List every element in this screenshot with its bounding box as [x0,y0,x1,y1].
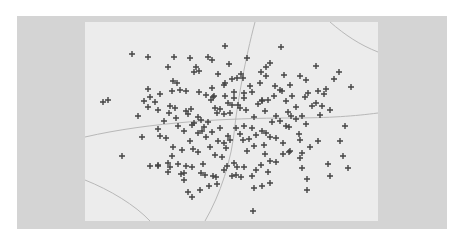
plus-marker-icon [175,123,181,129]
plus-marker-icon [265,169,271,175]
plus-marker-icon [342,123,348,129]
plus-marker-icon [181,177,187,183]
plus-marker-icon [203,134,209,140]
plus-marker-icon [229,173,235,179]
plus-marker-icon [187,138,193,144]
contour-line [205,22,255,221]
plus-marker-icon [145,104,151,110]
plus-marker-icon [327,173,333,179]
plus-marker-icon [200,161,206,167]
plus-marker-icon [219,154,225,160]
plus-marker-icon [227,110,233,116]
plus-marker-icon [272,83,278,89]
plus-marker-icon [197,187,203,193]
plus-marker-icon [181,128,187,134]
plus-marker-icon [198,117,204,123]
plus-marker-icon [303,77,309,83]
plus-marker-icon [305,90,311,96]
plus-marker-icon [285,109,291,115]
plus-marker-icon [277,118,283,124]
plus-marker-icon [139,134,145,140]
plus-marker-icon [240,137,246,143]
plus-marker-icon [166,110,172,116]
plus-marker-icon [209,85,215,91]
plus-marker-icon [209,129,215,135]
plus-marker-icon [255,101,261,107]
plus-marker-icon [141,98,147,104]
plus-marker-icon [251,185,257,191]
plus-marker-icon [257,80,263,86]
plus-marker-icon [251,114,257,120]
plus-marker-icon [185,189,191,195]
plus-marker-icon [169,153,175,159]
plus-marker-icon [171,54,177,60]
plus-marker-icon [214,181,220,187]
plus-marker-icon [278,44,284,50]
plus-marker-icon [249,173,255,179]
plus-marker-icon [224,163,230,169]
contour-line [330,22,378,52]
plus-marker-icon [287,148,293,154]
plus-marker-icon [280,140,286,146]
plus-marker-icon [287,82,293,88]
plus-marker-icon [283,98,289,104]
plus-marker-icon [233,125,239,131]
plus-marker-icon [258,69,264,75]
plus-marker-icon [234,75,240,81]
plus-marker-icon [249,125,255,131]
plus-marker-icon [244,55,250,61]
plus-marker-icon [303,121,309,127]
plus-marker-icon [258,162,264,168]
plus-marker-icon [267,158,273,164]
plus-marker-icon [157,133,163,139]
plus-marker-icon [249,89,255,95]
plus-marker-icon [340,153,346,159]
plus-marker-icon [207,144,213,150]
plus-marker-icon [163,135,169,141]
plus-marker-icon [161,118,167,124]
plus-marker-icon [286,124,292,130]
plus-marker-icon [222,43,228,49]
contour-line [85,113,378,137]
plus-marker-icon [259,183,265,189]
plus-marker-icon [211,93,217,99]
plus-marker-icon [147,94,153,100]
plus-marker-icon [325,161,331,167]
plus-marker-icon [297,73,303,79]
contour-line [85,180,150,221]
plus-marker-icon [244,148,250,154]
plus-marker-icon [183,163,189,169]
plus-marker-icon [262,151,268,157]
plus-marker-icon [302,94,308,100]
plus-marker-icon [221,111,227,117]
plus-marker-icon [177,87,183,93]
plus-marker-icon [273,159,279,165]
plus-marker-icon [234,164,240,170]
plus-marker-icon [231,95,237,101]
plus-marker-icon [145,54,151,60]
plus-marker-icon [226,61,232,67]
plus-marker-icon [241,95,247,101]
plus-marker-icon [273,135,279,141]
plus-marker-icon [243,107,249,113]
plus-marker-icon [313,63,319,69]
plus-marker-icon [152,99,158,105]
plus-marker-icon [155,107,161,113]
plus-marker-icon [145,86,151,92]
plus-marker-icon [237,131,243,137]
plus-marker-icon [271,93,277,99]
plus-marker-icon [293,116,299,122]
plus-marker-icon [269,119,275,125]
plus-marker-icon [286,149,292,155]
plus-marker-icon [296,131,302,137]
plus-marker-icon [212,152,218,158]
plus-marker-icon [267,134,273,140]
plus-marker-icon [206,183,212,189]
plus-marker-icon [165,64,171,70]
plus-marker-icon [147,163,153,169]
plus-marker-icon [157,91,163,97]
plus-marker-icon [210,173,216,179]
plus-marker-icon [196,89,202,95]
plus-marker-icon [195,114,201,120]
scatter-plot [0,0,464,244]
